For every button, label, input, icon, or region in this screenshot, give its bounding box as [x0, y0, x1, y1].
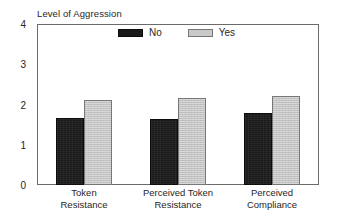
legend-label-yes: Yes [219, 28, 235, 38]
y-tick-1: 1 [20, 139, 26, 150]
gray-square-swatch-icon [188, 29, 213, 37]
black-square-swatch-icon [118, 29, 143, 37]
y-tick-4: 4 [20, 19, 26, 30]
chart-legend: No Yes [118, 26, 235, 40]
x-axis: TokenResistancePerceived TokenResistance… [37, 187, 319, 220]
chart-title: Level of Aggression [37, 8, 122, 19]
x-category-label-3: PerceivedCompliance [225, 187, 319, 211]
x-category-label-2: Perceived TokenResistance [131, 187, 225, 211]
legend-item-yes: Yes [188, 28, 235, 38]
bar-no-1 [56, 118, 84, 185]
aggression-bar-chart: Level of Aggression 4 3 2 1 0 No Yes Tok… [0, 0, 338, 222]
bar-yes-1 [84, 100, 112, 185]
legend-label-no: No [149, 28, 162, 38]
y-tick-0: 0 [20, 180, 26, 191]
bar-yes-2 [178, 98, 206, 185]
y-tick-2: 2 [20, 99, 26, 110]
bar-yes-3 [272, 96, 300, 185]
y-axis: 4 3 2 1 0 [0, 24, 33, 185]
x-category-label-1: TokenResistance [37, 187, 131, 211]
legend-item-no: No [118, 28, 162, 38]
bar-no-2 [150, 119, 178, 185]
bar-no-3 [244, 113, 272, 185]
bars-layer [37, 24, 319, 185]
y-tick-3: 3 [20, 59, 26, 70]
